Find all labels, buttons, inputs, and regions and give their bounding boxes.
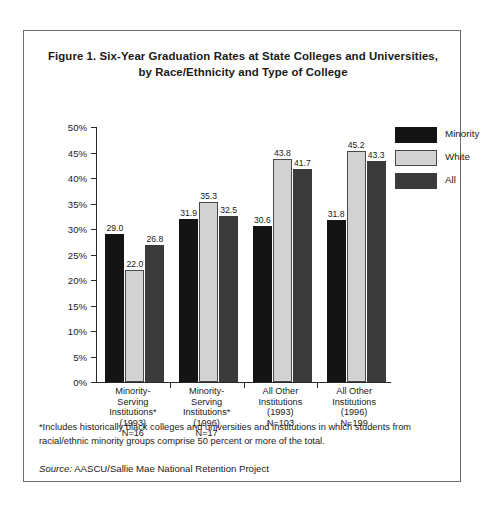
bar-all: 41.7 bbox=[293, 169, 312, 382]
bar-white: 45.2 bbox=[347, 151, 366, 382]
bar-value-label: 45.2 bbox=[348, 140, 365, 150]
legend-swatch-all bbox=[395, 173, 437, 189]
legend: MinorityWhiteAll bbox=[395, 127, 484, 196]
bar-group: 30.643.841.7 bbox=[253, 127, 312, 382]
bar-group: 31.935.332.5 bbox=[179, 127, 238, 382]
y-axis-tick bbox=[91, 204, 97, 205]
y-axis-tick bbox=[91, 357, 97, 358]
source-keyword: Source: bbox=[39, 463, 72, 474]
plot-area: 0%5%10%15%20%25%30%35%40%45%50% 29.022.0… bbox=[96, 127, 391, 382]
bar-white: 22.0 bbox=[125, 270, 144, 382]
y-axis-tick-label: 0% bbox=[73, 377, 87, 388]
y-axis-tick-label: 40% bbox=[68, 173, 87, 184]
legend-swatch-minority bbox=[395, 127, 437, 143]
y-axis-tick bbox=[91, 178, 97, 179]
legend-item-white: White bbox=[395, 150, 484, 167]
legend-label: All bbox=[445, 174, 456, 185]
bar-value-label: 22.0 bbox=[127, 259, 144, 269]
category-label-line: All Other bbox=[309, 386, 399, 397]
y-axis-tick-label: 45% bbox=[68, 147, 87, 158]
y-axis-tick-label: 10% bbox=[68, 326, 87, 337]
y-axis-tick bbox=[91, 280, 97, 281]
bar-minority: 30.6 bbox=[253, 226, 272, 382]
y-axis-tick bbox=[91, 382, 97, 383]
figure-frame: Figure 1. Six-Year Graduation Rates at S… bbox=[23, 30, 461, 482]
legend-label: Minority bbox=[445, 128, 479, 139]
legend-item-minority: Minority bbox=[395, 127, 484, 144]
bar-value-label: 30.6 bbox=[254, 215, 271, 225]
legend-swatch-white bbox=[395, 150, 437, 166]
footnote: *Includes historically black colleges an… bbox=[39, 421, 443, 448]
bar-minority: 29.0 bbox=[105, 234, 124, 382]
bar-group: 29.022.026.8 bbox=[105, 127, 164, 382]
legend-item-all: All bbox=[395, 173, 484, 190]
bar-value-label: 35.3 bbox=[200, 191, 217, 201]
y-axis-tick-label: 50% bbox=[68, 122, 87, 133]
category-label-line: (1996) bbox=[309, 407, 399, 418]
source-line: Source: AASCU/Sallie Mae National Retent… bbox=[39, 463, 443, 474]
bar-all: 26.8 bbox=[145, 245, 164, 382]
bar-value-label: 31.9 bbox=[180, 208, 197, 218]
bar-value-label: 43.3 bbox=[368, 150, 385, 160]
y-axis-tick-label: 5% bbox=[73, 351, 87, 362]
y-axis-tick bbox=[91, 153, 97, 154]
y-axis-tick-label: 30% bbox=[68, 224, 87, 235]
bar-value-label: 41.7 bbox=[294, 158, 311, 168]
y-axis-tick-label: 20% bbox=[68, 275, 87, 286]
y-axis-tick bbox=[91, 127, 97, 128]
bar-value-label: 31.8 bbox=[328, 209, 345, 219]
bar-white: 35.3 bbox=[199, 202, 218, 382]
bar-minority: 31.9 bbox=[179, 219, 198, 382]
y-axis-tick-label: 35% bbox=[68, 198, 87, 209]
y-axis-tick bbox=[91, 229, 97, 230]
bar-value-label: 26.8 bbox=[147, 234, 164, 244]
y-axis-tick-label: 25% bbox=[68, 249, 87, 260]
category-label-line: Institutions bbox=[309, 397, 399, 408]
bar-group: 31.845.243.3 bbox=[327, 127, 386, 382]
y-axis-tick-label: 15% bbox=[68, 300, 87, 311]
y-axis-tick bbox=[91, 331, 97, 332]
bar-value-label: 32.5 bbox=[220, 205, 237, 215]
figure-title-line-2: by Race/Ethnicity and Type of College bbox=[46, 64, 440, 80]
y-axis-tick bbox=[91, 255, 97, 256]
bar-all: 43.3 bbox=[367, 161, 386, 382]
source-text: AASCU/Sallie Mae National Retention Proj… bbox=[72, 463, 269, 474]
legend-label: White bbox=[445, 151, 470, 162]
figure-title: Figure 1. Six-Year Graduation Rates at S… bbox=[46, 48, 440, 80]
y-axis-tick bbox=[91, 306, 97, 307]
bar-value-label: 43.8 bbox=[274, 148, 291, 158]
figure-title-line-1: Figure 1. Six-Year Graduation Rates at S… bbox=[46, 48, 440, 64]
bar-value-label: 29.0 bbox=[107, 223, 124, 233]
bar-white: 43.8 bbox=[273, 159, 292, 382]
bar-all: 32.5 bbox=[219, 216, 238, 382]
bar-minority: 31.8 bbox=[327, 220, 346, 382]
